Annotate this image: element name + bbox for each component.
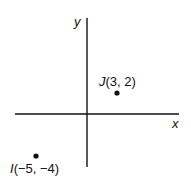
point-i (33, 153, 38, 158)
point-i-label: I(−5, −4) (10, 162, 59, 175)
y-axis-label: y (74, 15, 81, 28)
point-j (114, 90, 119, 95)
x-axis-label: x (172, 117, 179, 130)
point-j-label: J(3, 2) (99, 75, 136, 88)
